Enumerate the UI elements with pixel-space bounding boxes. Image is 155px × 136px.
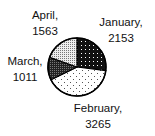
pie-slice-january: [77, 38, 106, 71]
label-january-name: January,: [99, 16, 142, 28]
label-february-value: 3265: [85, 118, 111, 130]
pie-chart: April, 1563 January, 2153 March, 1011 Fe…: [0, 0, 155, 136]
pie-slices: [48, 38, 106, 96]
label-march-name: March,: [7, 55, 42, 67]
label-april-name: April,: [32, 9, 58, 21]
label-april-value: 1563: [32, 25, 58, 37]
label-february-name: February,: [74, 102, 122, 114]
label-january-value: 2153: [108, 32, 134, 44]
label-march-value: 1011: [13, 71, 38, 83]
